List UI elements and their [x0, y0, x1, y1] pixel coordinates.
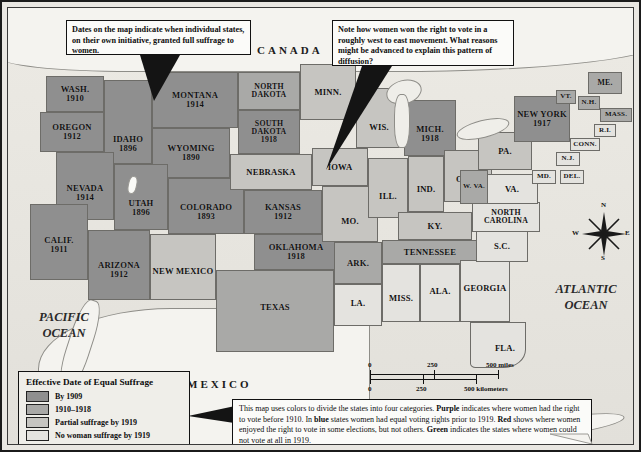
state-label: PA.	[498, 146, 512, 156]
state-texas: TEXAS	[216, 270, 334, 352]
state-sc: S.C.	[476, 230, 528, 262]
state-label: NORTH CAROLINA	[484, 208, 528, 225]
caption-text: This map uses colors to divide the state…	[239, 404, 580, 445]
state-year: 1896	[113, 144, 143, 153]
legend-item-by1909: By 1909	[26, 391, 182, 402]
compass-east-label: E	[625, 229, 630, 237]
state-north-dakota: NORTH DAKOTA	[238, 72, 300, 110]
state-year: 1912	[98, 270, 140, 279]
diffusion-callout: Note how women won the right to vote in …	[332, 20, 514, 66]
scale-km-tick-250	[423, 375, 424, 384]
state-label: MO.	[341, 216, 359, 226]
map-caption: This map uses colors to divide the state…	[232, 399, 592, 445]
state-ind: IND.	[408, 156, 444, 212]
state-va: VA.	[486, 174, 538, 204]
state-year: 1912	[52, 132, 91, 141]
state-ala: ALA.	[420, 264, 460, 322]
state-mich: MICH.1918	[404, 100, 456, 156]
map-legend: Effective Date of Equal Suffrage By 1909…	[18, 371, 190, 445]
state-label: SOUTH DAKOTA	[252, 119, 287, 136]
state-ky: KY.	[398, 212, 472, 240]
dates-callout-pointer	[138, 53, 218, 103]
state-label: N.J.	[562, 154, 575, 162]
scale-miles-label-250: 250	[427, 361, 438, 369]
state-miss: MISS.	[382, 264, 420, 322]
state-ri: R.I.	[594, 124, 616, 137]
state-year: 1918	[416, 134, 444, 143]
state-label: LA.	[351, 298, 366, 308]
state-nebraska: NEBRASKA	[230, 154, 312, 190]
map-outer-frame: WASH.1910 OREGON1912 IDAHO1896 MONTANA19…	[0, 0, 641, 452]
legend-label: By 1909	[55, 392, 82, 401]
scale-miles-label-0: 0	[368, 361, 372, 369]
state-label: ARK.	[347, 258, 369, 268]
state-label: S.C.	[494, 241, 510, 251]
state-north-carolina: NORTH CAROLINA	[472, 202, 540, 232]
state-label: ME.	[597, 78, 612, 87]
scale-km-label-250: 250	[416, 385, 427, 393]
state-label: MISS.	[389, 293, 413, 303]
state-new-mexico: NEW MEXICO	[150, 234, 216, 300]
state-label: DEL.	[564, 172, 581, 180]
attribution-label: (after Opdycke)	[554, 444, 602, 445]
compass-west-label: W	[572, 229, 579, 237]
state-arizona: ARIZONA1912	[88, 230, 150, 300]
state-year: 1918	[269, 252, 324, 261]
state-label: W. VA.	[463, 182, 485, 190]
state-label: R.I.	[599, 126, 611, 134]
state-label: MD.	[537, 172, 551, 180]
state-label: NEBRASKA	[246, 167, 295, 177]
legend-swatch-1910-1918	[26, 404, 49, 415]
scale-miles-tick-250	[434, 370, 435, 379]
state-me: ME.	[588, 72, 622, 94]
diffusion-callout-pointer	[320, 64, 400, 172]
state-wash: WASH.1910	[46, 76, 104, 112]
legend-item-none: No woman suffrage by 1919	[26, 430, 182, 441]
scale-km-tick-0	[370, 375, 371, 384]
state-label: CONN.	[573, 140, 596, 148]
scale-km-label-0: 0	[368, 385, 372, 393]
state-label: IND.	[417, 184, 436, 194]
state-label: TENNESSEE	[404, 247, 456, 257]
ocean-label-atlantic: ATLANTICOCEAN	[536, 282, 634, 313]
state-ark: ARK.	[334, 242, 382, 284]
legend-label: 1910–1918	[55, 405, 91, 414]
scale-bar: 0 250 500 miles 0 250 500 kilometers	[366, 360, 516, 394]
state-del: DEL.	[560, 170, 584, 184]
scale-miles-tick-500	[498, 370, 499, 379]
state-year: 1918	[239, 136, 299, 144]
state-south-dakota: SOUTH DAKOTA1918	[238, 110, 300, 154]
state-label: GEORGIA	[464, 283, 507, 293]
map-inner-frame: WASH.1910 OREGON1912 IDAHO1896 MONTANA19…	[7, 7, 634, 445]
state-label: ILL.	[379, 191, 397, 201]
compass-rose: N E S W	[578, 208, 630, 260]
state-label: TEXAS	[260, 302, 290, 312]
state-label: ALA.	[429, 286, 450, 296]
state-year: 1910	[61, 94, 89, 103]
state-year: 1912	[265, 212, 301, 221]
state-label: N.H.	[582, 98, 597, 106]
state-calif: CALIF.1911	[30, 204, 88, 280]
state-conn: CONN.	[570, 138, 600, 151]
state-label: KY.	[428, 221, 443, 231]
state-w-va: W. VA.	[460, 170, 488, 204]
state-utah: UTAH1896	[114, 164, 168, 230]
compass-star-icon	[578, 208, 630, 260]
legend-item-1910-1918: 1910–1918	[26, 404, 182, 415]
country-label-mexico: MEXICO	[187, 378, 251, 390]
legend-swatch-none	[26, 430, 49, 441]
state-label: FLA.	[495, 343, 515, 353]
state-nj: N.J.	[556, 152, 580, 166]
compass-south-label: S	[601, 254, 605, 262]
state-la: LA.	[334, 284, 382, 326]
state-georgia: GEORGIA	[460, 260, 510, 322]
compass-north-label: N	[601, 201, 606, 209]
state-vt: VT.	[556, 90, 576, 104]
state-year: 1890	[167, 153, 214, 162]
country-label-canada: CANADA	[257, 44, 323, 56]
state-md: MD.	[532, 170, 556, 184]
state-nh: N.H.	[578, 96, 600, 110]
legend-label: Partial suffrage by 1919	[55, 418, 137, 427]
state-year: 1896	[129, 208, 154, 217]
ocean-label-pacific: PACIFICOCEAN	[16, 310, 112, 341]
